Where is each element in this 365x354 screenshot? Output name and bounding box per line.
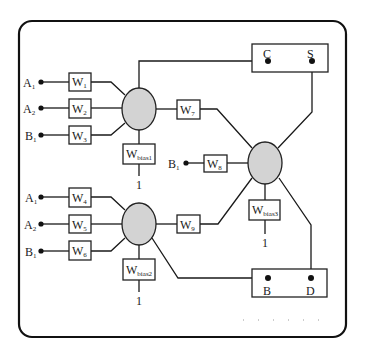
weight-box-w4: W4 [69,188,91,207]
input-terminal [38,221,43,226]
weight-box-w2: W2 [69,99,91,118]
weight-box-w6: W6 [69,241,91,260]
input-terminal [38,105,43,110]
input-terminal [38,194,43,199]
weight-box-w7: W7 [177,100,200,119]
neuron-3 [248,142,282,184]
output-terminal-d [308,275,314,281]
input-terminal [38,132,43,137]
input-terminal [38,248,43,253]
output-box-top: C S [252,44,328,72]
input-terminal [183,160,188,165]
bias-input-value: 1 [136,294,142,308]
output-terminal-s [309,58,315,64]
neuron-2 [122,203,156,245]
weight-box-w1: W1 [69,73,91,91]
weight-box-w3: W3 [69,126,91,144]
weight-box-w5: W5 [69,215,91,233]
weight-box-w8: W8 [204,155,227,172]
output-terminal-c [265,58,271,64]
input-terminal [38,79,43,84]
weight-box-w9: W9 [177,215,200,233]
output-label-b: B [263,284,271,298]
output-box-bottom: B D [252,269,327,298]
neural-network-diagram: C S B D A1 A2 B1 A1 A2 B1 B1 W1 W2 W3 [0,0,365,354]
bias-input-value: 1 [262,236,268,250]
neuron-1 [122,88,156,130]
output-terminal-b [265,275,271,281]
bias-input-value: 1 [136,178,142,192]
output-label-d: D [306,284,315,298]
